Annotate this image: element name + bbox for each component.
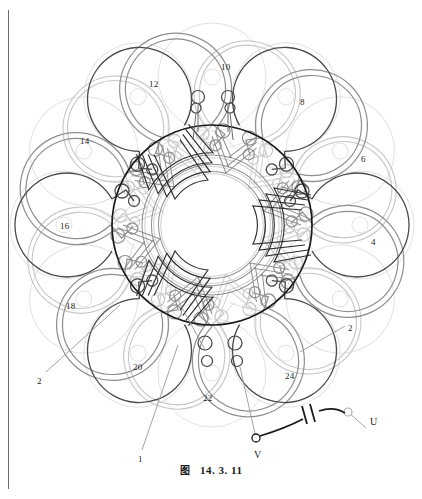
- end-turn-arcs-mid: [112, 125, 312, 325]
- figure-caption: 图14. 3. 11: [0, 462, 422, 477]
- callout-label-16: 16: [60, 222, 69, 231]
- caption-figure-number: 14. 3. 11: [200, 464, 242, 476]
- bottom-lead-terminals: [198, 336, 243, 367]
- terminal-node-u: [344, 408, 352, 416]
- terminal-label-u: U: [370, 417, 377, 427]
- figure-page: 10 12 8 14 6 16 4 18 2 20 24 22 2 1 U V …: [0, 0, 422, 499]
- callout-label-6: 6: [361, 155, 366, 164]
- callout-label-4: 4: [371, 238, 376, 247]
- callout-label-22: 22: [203, 394, 212, 403]
- capacitor-lead-right: [319, 409, 345, 413]
- callout-label-12: 12: [149, 80, 158, 89]
- callout-label-8: 8: [300, 98, 305, 107]
- callout-label-20: 20: [133, 363, 142, 372]
- leader-line-v: [240, 367, 256, 438]
- caption-cjk-word: 图: [180, 465, 191, 476]
- callout-label-10: 10: [221, 63, 230, 72]
- terminal-node-v: [252, 434, 260, 442]
- background-petal-layer: [10, 23, 414, 427]
- capacitor-plate-right: [310, 404, 315, 422]
- callout-label-2-right: 2: [348, 324, 353, 333]
- capacitor-plate-left: [302, 406, 307, 424]
- callout-label-2-left: 2: [37, 377, 42, 386]
- stator-winding-diagram: [0, 0, 422, 499]
- terminal-label-v: V: [254, 450, 261, 460]
- capacitor-lead-left: [260, 419, 303, 436]
- external-circuit: [252, 404, 352, 442]
- callout-label-14: 14: [80, 137, 89, 146]
- callout-label-18: 18: [66, 302, 75, 311]
- callout-label-24: 24: [285, 372, 294, 381]
- top-lead-terminals: [191, 91, 235, 141]
